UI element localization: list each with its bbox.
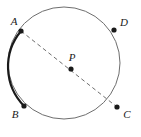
main-circle	[8, 7, 120, 119]
circle-diagram: A D P B C	[0, 0, 141, 137]
point-label-c: C	[123, 109, 130, 120]
point-dot-c	[114, 104, 119, 109]
point-label-b: B	[12, 109, 19, 120]
point-dot-d	[111, 27, 116, 32]
point-label-d: D	[120, 17, 128, 28]
point-dot-a	[18, 28, 23, 33]
point-label-p: P	[69, 52, 76, 63]
point-label-a: A	[11, 16, 18, 27]
point-dot-p	[68, 66, 73, 71]
point-dot-b	[21, 103, 26, 108]
highlighted-arc-ab	[8, 31, 24, 106]
